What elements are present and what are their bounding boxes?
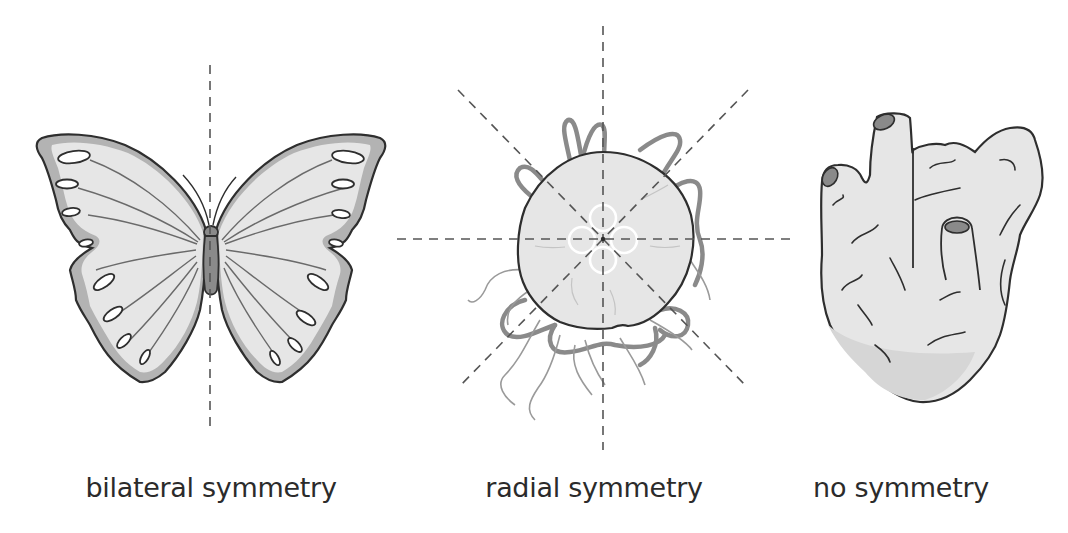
jellyfish-bell [518,152,694,329]
sponge-illustration [819,111,1043,402]
jellyfish-illustration [397,26,792,450]
label-radial-symmetry: radial symmetry [485,472,702,503]
butterfly-illustration [37,65,386,430]
symmetry-diagram: bilateral symmetry radial symmetry no sy… [0,0,1068,533]
butterfly-body [204,226,219,295]
label-no-symmetry: no symmetry [813,472,989,503]
label-bilateral-symmetry: bilateral symmetry [85,472,336,503]
diagram-canvas [0,0,1068,533]
